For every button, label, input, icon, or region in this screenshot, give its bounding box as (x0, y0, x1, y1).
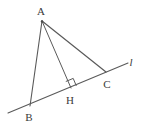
vertex-label-c: C (103, 79, 110, 90)
vertex-label-b: B (25, 112, 32, 123)
segment-ab (30, 21, 42, 106)
segment-ac (42, 21, 106, 72)
figure-canvas (0, 0, 145, 132)
vertex-label-a: A (37, 6, 45, 17)
geometry-figure: A B H C l (0, 0, 145, 132)
vertex-label-h: H (66, 95, 74, 106)
segment-ah-altitude (42, 21, 71, 88)
vertex-dot-a (41, 20, 43, 22)
line-label-l: l (129, 57, 132, 68)
